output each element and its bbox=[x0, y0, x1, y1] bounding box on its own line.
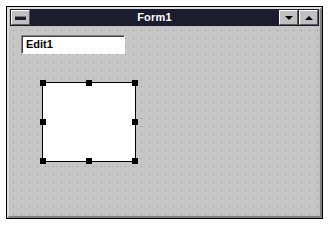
resize-handle-n[interactable] bbox=[86, 80, 92, 86]
form-design-surface[interactable]: Edit1 bbox=[10, 27, 319, 215]
resize-handle-nw[interactable] bbox=[40, 80, 46, 86]
screen-root: Form1 Edit1 bbox=[0, 0, 335, 234]
system-menu-bar-glyph bbox=[15, 16, 26, 20]
resize-handle-e[interactable] bbox=[132, 119, 138, 125]
system-menu-icon[interactable] bbox=[11, 10, 30, 25]
edit-control-edit1[interactable]: Edit1 bbox=[21, 35, 125, 54]
window-title: Form1 bbox=[30, 9, 279, 26]
title-bar[interactable]: Form1 bbox=[10, 9, 319, 26]
arrow-down-icon bbox=[285, 16, 293, 20]
edit-control-text: Edit1 bbox=[26, 38, 53, 51]
resize-handle-sw[interactable] bbox=[40, 158, 46, 164]
resize-handle-ne[interactable] bbox=[132, 80, 138, 86]
minimize-button[interactable] bbox=[279, 10, 298, 25]
form-designer-window: Form1 Edit1 bbox=[6, 6, 323, 219]
maximize-button[interactable] bbox=[299, 10, 318, 25]
resize-handle-se[interactable] bbox=[132, 158, 138, 164]
panel-control-panel1[interactable] bbox=[42, 82, 136, 162]
resize-handle-w[interactable] bbox=[40, 119, 46, 125]
resize-handle-s[interactable] bbox=[86, 158, 92, 164]
arrow-up-icon bbox=[305, 16, 313, 20]
